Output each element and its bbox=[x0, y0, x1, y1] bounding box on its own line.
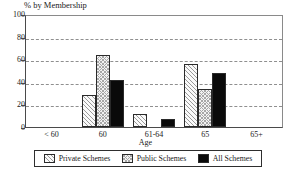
legend-label-private-schemes: Private Schemes bbox=[59, 154, 111, 163]
bar-all-60 bbox=[110, 80, 124, 127]
bar-group-65 bbox=[180, 16, 231, 127]
x-axis-title: Age bbox=[0, 138, 291, 147]
y-tick-mark-0 bbox=[21, 128, 25, 129]
chart-legend: Private Schemes Public Schemes All Schem… bbox=[34, 150, 262, 167]
bar-private-60 bbox=[82, 95, 96, 127]
chart-container: % by Membership 100 80 60 40 20 0 bbox=[0, 0, 291, 171]
bar-all-65 bbox=[212, 73, 226, 127]
legend-item-private-schemes: Private Schemes bbox=[44, 154, 111, 163]
bar-private-65 bbox=[184, 64, 198, 127]
bar-public-65 bbox=[198, 89, 212, 127]
bar-public-60 bbox=[96, 55, 110, 127]
legend-label-all-schemes: All Schemes bbox=[213, 154, 253, 163]
legend-swatch-private-icon bbox=[44, 154, 55, 163]
bar-all-61-64 bbox=[161, 119, 175, 127]
bar-group-60 bbox=[77, 16, 128, 127]
legend-swatch-public-icon bbox=[122, 154, 133, 163]
bar-group-61-64 bbox=[128, 16, 179, 127]
legend-item-all-schemes: All Schemes bbox=[198, 154, 253, 163]
bar-group-65plus bbox=[231, 16, 282, 127]
legend-item-public-schemes: Public Schemes bbox=[122, 154, 187, 163]
bar-private-61-64 bbox=[133, 114, 147, 127]
legend-swatch-all-icon bbox=[198, 154, 209, 163]
legend-label-public-schemes: Public Schemes bbox=[137, 154, 187, 163]
chart-title: % by Membership bbox=[24, 0, 87, 11]
bar-group-lt60 bbox=[26, 16, 77, 127]
bar-groups bbox=[26, 16, 282, 127]
y-axis: 100 80 60 40 20 0 bbox=[0, 15, 25, 128]
